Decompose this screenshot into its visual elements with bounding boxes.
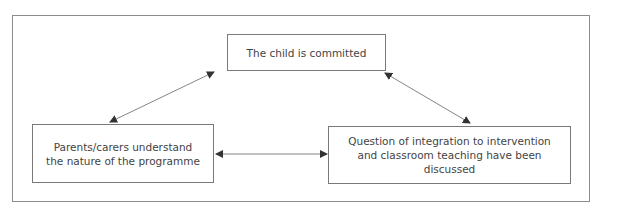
arrow-top-left: [110, 72, 214, 122]
node-child-committed: The child is committed: [227, 34, 386, 71]
node-text: Question of integration to intervention: [348, 134, 551, 148]
node-integration-discussed: Question of integration to intervention …: [328, 126, 571, 184]
node-text: The child is committed: [247, 46, 367, 60]
node-text: and classroom teaching have been: [348, 148, 551, 162]
node-text: the nature of the programme: [46, 154, 200, 168]
node-text: Parents/carers understand: [46, 140, 200, 154]
node-text: discussed: [348, 162, 551, 176]
arrow-top-right: [385, 73, 470, 123]
node-parents-understand: Parents/carers understand the nature of …: [32, 124, 214, 183]
